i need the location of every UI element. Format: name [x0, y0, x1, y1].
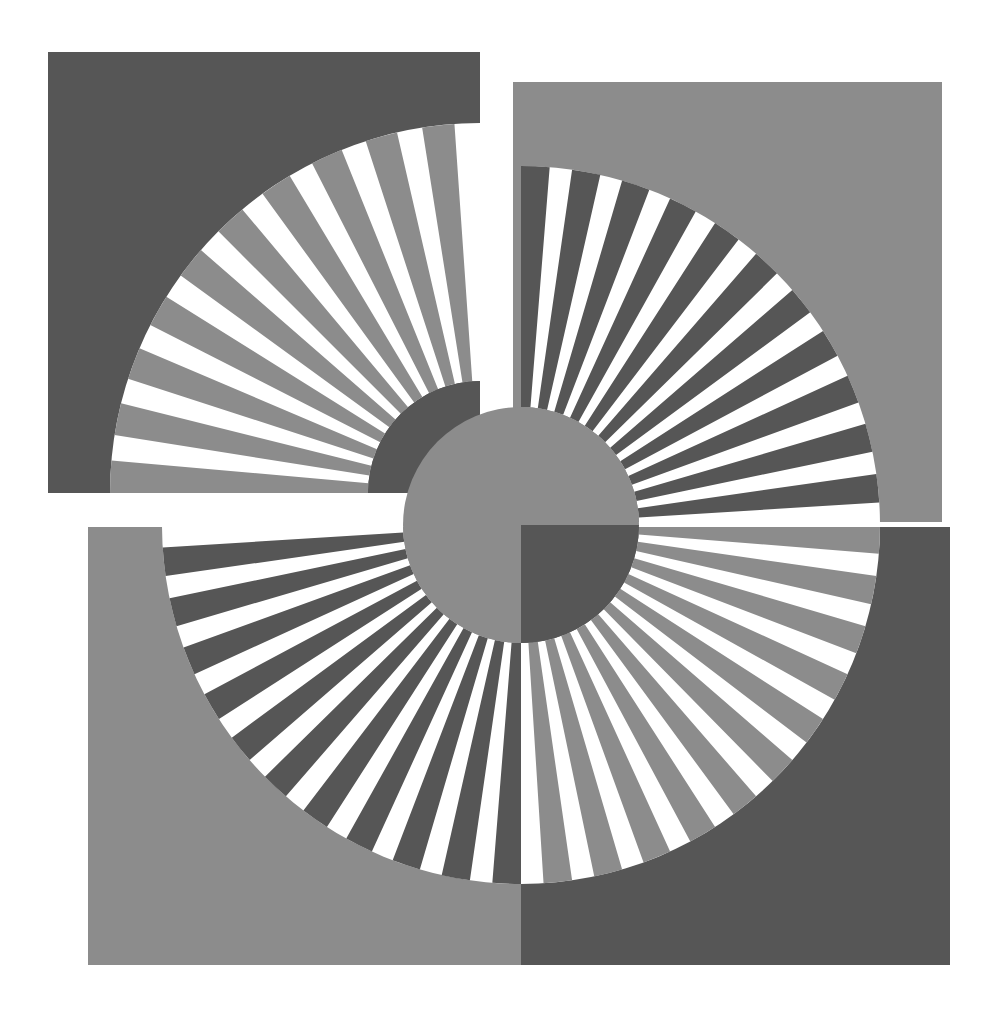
- artboard: Radial Sunburst Composition: [0, 0, 994, 1016]
- sunburst-figure: Radial Sunburst Composition: [0, 0, 994, 1016]
